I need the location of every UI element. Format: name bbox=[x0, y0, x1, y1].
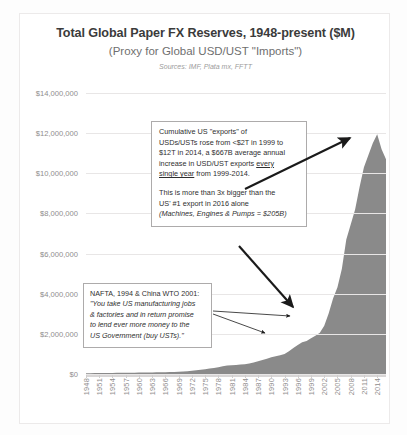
annotation-callout-exports: Cumulative US "exports" of USDs/USTs ros… bbox=[151, 121, 307, 227]
x-axis-tick-label: 1963 bbox=[148, 378, 157, 395]
annotation-line: US Government (buy USTs)." bbox=[90, 331, 184, 340]
y-axis-labels: $14,000,000$12,000,000$10,000,000$8,000,… bbox=[20, 93, 82, 374]
y-axis-tick-label: $2,000,000 bbox=[40, 329, 78, 338]
gridline bbox=[86, 254, 386, 255]
annotation-line: "You take US manufacturing jobs bbox=[90, 299, 195, 308]
chart-title: Total Global Paper FX Reserves, 1948-pre… bbox=[20, 26, 391, 40]
annotation-line: $12T in 2014, a $667B average annual bbox=[159, 148, 285, 157]
annotation-line: & factories and in return promise bbox=[90, 310, 194, 319]
x-axis-tick-label: 1993 bbox=[281, 378, 290, 395]
x-axis-tick-label: 1954 bbox=[108, 378, 117, 395]
x-axis-tick-label: 2011 bbox=[360, 378, 369, 395]
annotation-line: to lend ever more money to the bbox=[90, 320, 189, 329]
x-axis-tick-label: 1969 bbox=[175, 378, 184, 395]
x-axis-tick-label: 1984 bbox=[241, 378, 250, 395]
annotation-emphasis: single year bbox=[159, 169, 194, 178]
annotation-line: from 1999-2014. bbox=[194, 169, 250, 178]
annotation-line: This is more than 3x bigger than the bbox=[159, 188, 275, 197]
x-axis-tick-label: 1972 bbox=[188, 378, 197, 395]
x-axis-tick-label: 1981 bbox=[228, 378, 237, 395]
x-axis-tick-label: 2005 bbox=[333, 378, 342, 395]
annotation-quote: "You take US manufacturing jobs & factor… bbox=[90, 299, 206, 341]
x-axis-tick-label: 2008 bbox=[347, 378, 356, 395]
x-axis-tick-label: 1948 bbox=[82, 378, 91, 395]
x-axis-labels: 1948195119541957196019631966196919721975… bbox=[86, 378, 386, 424]
chart-sources: Sources: IMF, Plata mx, FFTT bbox=[20, 63, 391, 70]
annotation-line: increase in USD/UST exports bbox=[159, 159, 256, 168]
annotation-line: USDs/USTs rose from <$2T in 1999 to bbox=[159, 138, 283, 147]
y-axis-tick-label: $14,000,000 bbox=[36, 89, 78, 98]
y-axis-tick-label: $12,000,000 bbox=[36, 129, 78, 138]
x-axis-tick-label: 1990 bbox=[267, 378, 276, 395]
x-axis-tick-label: 1957 bbox=[122, 378, 131, 395]
x-axis-line bbox=[86, 375, 386, 377]
x-axis-tick-label: 2014 bbox=[373, 378, 382, 395]
chart-subtitle: (Proxy for Global USD/UST "Imports") bbox=[20, 45, 391, 57]
x-axis-tick-label: 1960 bbox=[135, 378, 144, 395]
annotation-paragraph: This is more than 3x bigger than the US'… bbox=[159, 188, 300, 220]
x-axis-tick-label: 1996 bbox=[294, 378, 303, 395]
annotation-line: (Machines, Engines & Pumps = $205B) bbox=[159, 209, 287, 218]
annotation-emphasis: every bbox=[256, 159, 274, 168]
x-axis-tick-label: 1987 bbox=[254, 378, 263, 395]
x-axis-tick-label: 1951 bbox=[95, 378, 104, 395]
annotation-line: US' #1 export in 2016 alone bbox=[159, 199, 249, 208]
x-axis-tick-label: 1975 bbox=[201, 378, 210, 395]
y-axis-tick-label: $4,000,000 bbox=[40, 289, 78, 298]
y-axis-tick-label: $6,000,000 bbox=[40, 249, 78, 258]
gridline bbox=[86, 93, 386, 94]
annotation-heading: NAFTA, 1994 & China WTO 2001: bbox=[90, 289, 206, 299]
x-axis-tick-label: 1978 bbox=[214, 378, 223, 395]
annotation-paragraph: Cumulative US "exports" of USDs/USTs ros… bbox=[159, 127, 300, 180]
screenshot-frame: Total Global Paper FX Reserves, 1948-pre… bbox=[0, 0, 407, 435]
annotation-callout-nafta: NAFTA, 1994 & China WTO 2001: "You take … bbox=[83, 283, 212, 348]
x-axis-tick-label: 1966 bbox=[161, 378, 170, 395]
x-axis-tick-label: 1999 bbox=[307, 378, 316, 395]
chart-card: Total Global Paper FX Reserves, 1948-pre… bbox=[19, 13, 390, 424]
annotation-line: Cumulative US "exports" of bbox=[159, 127, 247, 136]
x-axis-tick-label: 2002 bbox=[320, 378, 329, 395]
y-axis-tick-label: $10,000,000 bbox=[36, 169, 78, 178]
y-axis-tick-label: $8,000,000 bbox=[40, 209, 78, 218]
y-axis-tick-label: $0 bbox=[70, 370, 78, 379]
